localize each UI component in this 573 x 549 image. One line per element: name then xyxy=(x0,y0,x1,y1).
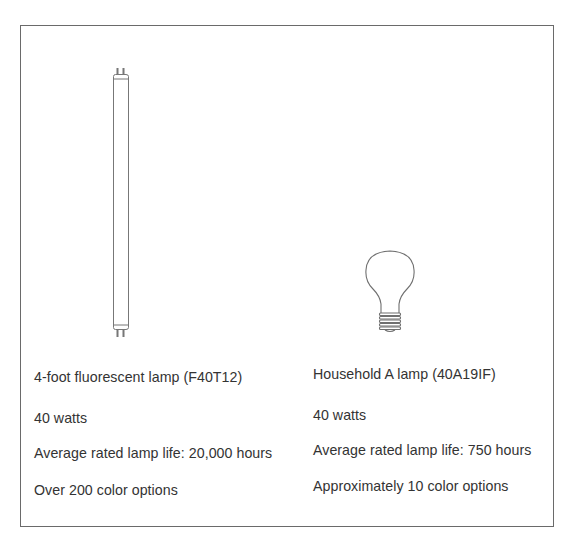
household-lamp-name: Household A lamp (40A19IF) xyxy=(313,366,496,382)
fluorescent-lamp-name: 4-foot fluorescent lamp (F40T12) xyxy=(34,369,242,385)
household-lamp-life: Average rated lamp life: 750 hours xyxy=(313,442,531,458)
household-lamp-wattage: 40 watts xyxy=(313,407,366,423)
household-color-options: Approximately 10 color options xyxy=(313,478,509,494)
fluorescent-lamp-wattage: 40 watts xyxy=(34,410,87,426)
fluorescent-color-options: Over 200 color options xyxy=(34,482,178,498)
fluorescent-lamp-life: Average rated lamp life: 20,000 hours xyxy=(34,445,272,461)
